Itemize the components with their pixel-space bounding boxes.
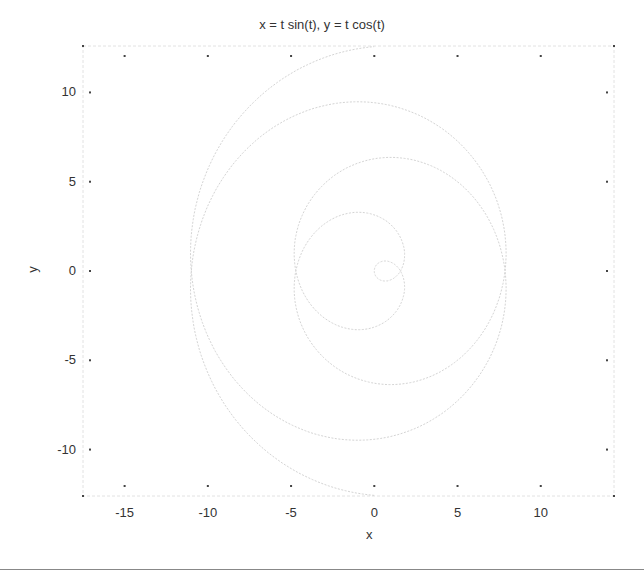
plot-area — [0, 0, 644, 574]
y-axis-label: y — [25, 266, 40, 273]
tick-mark — [540, 485, 542, 487]
x-tick-label: 10 — [521, 505, 561, 520]
y-tick-label: 10 — [36, 84, 76, 99]
y-tick-label: 0 — [36, 263, 76, 278]
tick-mark — [606, 181, 608, 183]
x-tick-label: -10 — [188, 505, 228, 520]
tick-mark — [373, 55, 375, 57]
tick-mark — [89, 359, 91, 361]
tick-mark — [89, 270, 91, 272]
x-tick-label: 5 — [438, 505, 478, 520]
tick-mark — [606, 91, 608, 93]
axes-box — [83, 46, 614, 496]
tick-mark — [613, 45, 615, 47]
y-tick-label: -5 — [36, 352, 76, 367]
tick-mark — [613, 495, 615, 497]
x-tick-label: -5 — [271, 505, 311, 520]
x-tick-label: 0 — [354, 505, 394, 520]
tick-mark — [124, 485, 126, 487]
spiral-curve — [191, 47, 507, 496]
tick-mark — [606, 270, 608, 272]
tick-mark — [207, 485, 209, 487]
y-tick-label: -10 — [36, 442, 76, 457]
tick-mark — [82, 45, 84, 47]
tick-mark — [290, 55, 292, 57]
tick-mark — [89, 91, 91, 93]
tick-marks — [82, 45, 615, 497]
bottom-divider — [0, 569, 644, 570]
tick-mark — [82, 495, 84, 497]
tick-mark — [124, 55, 126, 57]
y-tick-label: 5 — [36, 174, 76, 189]
tick-mark — [540, 55, 542, 57]
tick-mark — [89, 449, 91, 451]
tick-mark — [207, 55, 209, 57]
tick-mark — [89, 181, 91, 183]
x-tick-label: -15 — [105, 505, 145, 520]
tick-mark — [457, 55, 459, 57]
tick-mark — [290, 485, 292, 487]
tick-mark — [457, 485, 459, 487]
tick-mark — [606, 359, 608, 361]
x-axis-label: x — [366, 527, 373, 542]
tick-mark — [373, 485, 375, 487]
tick-mark — [606, 449, 608, 451]
